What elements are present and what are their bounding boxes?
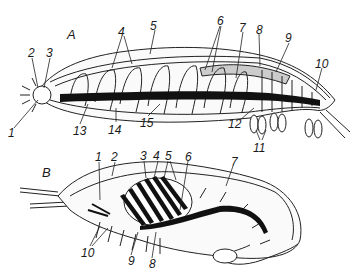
label-a-4: 4	[118, 26, 125, 38]
panel-b-label: B	[42, 166, 51, 179]
label-b-7: 7	[231, 156, 238, 168]
anatomy-figure: A B 1 2 3 4 5 6 7 8 9 10 11 12 13 14 15 …	[0, 0, 362, 278]
label-a-13: 13	[73, 125, 86, 137]
label-a-5: 5	[150, 20, 157, 32]
label-a-10: 10	[315, 58, 328, 70]
label-b-1: 1	[95, 151, 102, 163]
label-a-12: 12	[228, 118, 241, 130]
label-a-2: 2	[28, 47, 35, 59]
label-a-11: 11	[253, 142, 265, 154]
label-a-6: 6	[217, 15, 224, 27]
label-b-9: 9	[128, 255, 135, 267]
panel-b-body	[20, 162, 301, 265]
label-b-10: 10	[81, 247, 94, 259]
label-a-1: 1	[8, 127, 15, 139]
label-a-8: 8	[256, 24, 263, 36]
label-b-8: 8	[149, 258, 156, 270]
label-a-14: 14	[108, 124, 121, 136]
label-b-2: 2	[111, 151, 118, 163]
label-a-15: 15	[140, 117, 153, 129]
diagram-drawing	[0, 0, 362, 278]
label-a-7: 7	[239, 22, 246, 34]
label-a-9: 9	[285, 32, 292, 44]
panel-a-label: A	[67, 28, 76, 41]
label-a-3: 3	[46, 47, 53, 59]
label-b-6: 6	[185, 151, 192, 163]
label-b-5: 5	[165, 150, 172, 162]
label-b-3: 3	[140, 150, 147, 162]
label-b-4: 4	[153, 150, 160, 162]
